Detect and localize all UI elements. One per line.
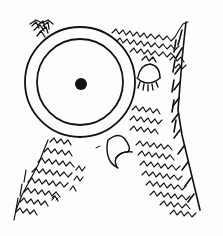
- left-wing-feathers: [14, 138, 85, 220]
- right-body-edge: [172, 22, 200, 210]
- closed-eye: [137, 56, 160, 91]
- left-ear-tuft: [30, 20, 53, 37]
- owl-illustration: owl wearing a monocle: [0, 0, 223, 236]
- pupil: [75, 78, 87, 90]
- beak: [107, 135, 132, 168]
- right-chest-feathers: [130, 106, 196, 217]
- monocle: [25, 27, 135, 137]
- stray-marks: [52, 146, 100, 200]
